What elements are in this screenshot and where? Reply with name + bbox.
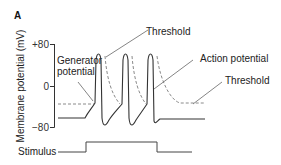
neuron-figure: A Membrane potential (mV) +80 0 −80 Thre… <box>0 0 281 165</box>
threshold-label-top: Threshold <box>146 26 190 37</box>
tick-0: 0 <box>43 81 49 92</box>
threshold-label-right: Threshold <box>225 75 269 86</box>
tick-minus80: −80 <box>32 122 49 133</box>
action-potential-label: Action potential <box>200 53 268 64</box>
panel-label: A <box>14 10 21 21</box>
stimulus-label: Stimulus <box>18 146 56 157</box>
y-axis-label: Membrane potential (mV) <box>15 30 26 143</box>
generator-potential-label-2: potential <box>57 66 95 77</box>
generator-potential-label-1: Generator <box>57 55 103 66</box>
annotation-lines <box>78 30 222 104</box>
tick-plus80: +80 <box>32 39 49 50</box>
stimulus-trace <box>58 142 192 152</box>
y-axis <box>50 44 55 128</box>
